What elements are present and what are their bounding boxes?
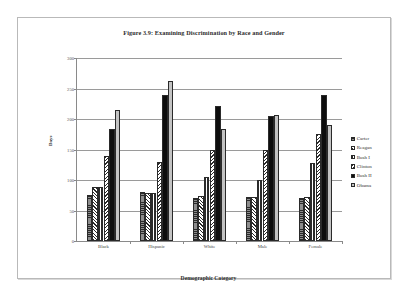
bar-bush_i-male: [257, 180, 262, 241]
bar-reagan-white: [198, 196, 203, 241]
y-tick-label: 250: [67, 86, 74, 91]
bar-carter-hispanic: [140, 192, 145, 241]
y-axis-label: Days: [48, 135, 53, 146]
bar-group: [130, 58, 183, 241]
legend-label: Clinton: [357, 164, 372, 169]
plot-wrapper: 050100150200250300BlackHispanicWhiteMale…: [76, 58, 341, 258]
y-tick-label: 100: [67, 178, 74, 183]
document-frame: Figure 3.9: Examining Discrimination by …: [17, 17, 391, 279]
bar-clinton-female: [316, 134, 321, 241]
bar-carter-female: [299, 198, 304, 241]
legend-label: Reagan: [357, 145, 372, 150]
plot-area: 050100150200250300BlackHispanicWhiteMale…: [76, 58, 342, 242]
bar-group: [289, 58, 342, 241]
legend-swatch-bush_i-icon: [351, 155, 355, 159]
bar-bush_i-female: [310, 163, 315, 241]
legend-item-bush_ii: Bush II: [351, 171, 403, 180]
y-tick-label: 200: [67, 117, 74, 122]
legend-item-carter: Carter: [351, 134, 403, 143]
legend-swatch-reagan-icon: [351, 146, 355, 150]
bar-bush_i-white: [204, 177, 209, 241]
y-tick-label: 300: [67, 56, 74, 61]
bar-carter-black: [87, 195, 92, 241]
bar-bush_i-hispanic: [151, 193, 156, 241]
bar-obama-male: [274, 115, 279, 241]
bar-bush_ii-white: [215, 106, 220, 241]
bar-bush_ii-hispanic: [162, 95, 167, 241]
y-tick-label: 50: [69, 208, 74, 213]
legend-item-clinton: Clinton: [351, 162, 403, 171]
bar-clinton-white: [210, 150, 215, 242]
x-axis-label: Demographic Category: [76, 275, 341, 281]
y-tick-label: 0: [72, 239, 74, 244]
legend-item-obama: Obama: [351, 180, 403, 189]
bar-group: [236, 58, 289, 241]
bar-obama-female: [327, 125, 332, 241]
chart-title: Figure 3.9: Examining Discrimination by …: [18, 29, 390, 36]
bar-bush_ii-black: [109, 129, 114, 241]
legend-label: Obama: [357, 183, 371, 188]
legend-swatch-bush_ii-icon: [351, 174, 355, 178]
bar-obama-hispanic: [168, 81, 173, 241]
bar-reagan-black: [92, 187, 97, 241]
figure-page: Figure 3.9: Examining Discrimination by …: [0, 0, 410, 298]
bar-clinton-male: [263, 150, 268, 242]
chart-legend: CarterReaganBush IClintonBush IIObama: [351, 134, 403, 190]
x-category-label: Female: [289, 244, 343, 249]
bar-bush_i-black: [98, 187, 103, 241]
bar-group: [183, 58, 236, 241]
bar-bush_ii-female: [321, 95, 326, 241]
legend-swatch-carter-icon: [351, 137, 355, 141]
legend-swatch-obama-icon: [351, 183, 355, 187]
x-category-label: White: [183, 244, 237, 249]
x-category-label: Hispanic: [130, 244, 184, 249]
bar-clinton-hispanic: [157, 162, 162, 241]
bar-carter-male: [246, 197, 251, 241]
x-category-label: Male: [236, 244, 290, 249]
bar-group: [77, 58, 130, 241]
y-tick-mark: [74, 241, 77, 242]
legend-item-reagan: Reagan: [351, 143, 403, 152]
bar-obama-black: [115, 110, 120, 241]
y-tick-label: 150: [67, 147, 74, 152]
legend-label: Bush II: [357, 173, 372, 178]
legend-label: Bush I: [357, 155, 370, 160]
bar-reagan-male: [251, 197, 256, 241]
bar-obama-white: [221, 129, 226, 241]
x-tick-mark: [342, 241, 343, 244]
bar-clinton-black: [104, 156, 109, 241]
legend-item-bush_i: Bush I: [351, 153, 403, 162]
bar-bush_ii-male: [268, 116, 273, 241]
legend-swatch-clinton-icon: [351, 164, 355, 168]
bar-reagan-female: [304, 197, 309, 241]
legend-label: Carter: [357, 136, 370, 141]
x-category-label: Black: [77, 244, 131, 249]
bar-carter-white: [193, 198, 198, 241]
bar-reagan-hispanic: [145, 193, 150, 241]
